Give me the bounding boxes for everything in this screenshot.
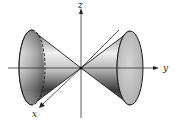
z-axis-label: z xyxy=(77,0,83,10)
y-axis-label: y xyxy=(162,63,169,73)
double-cone-diagram: z y x xyxy=(0,0,175,129)
y-axis-arrowhead xyxy=(153,66,159,70)
vertex-origin xyxy=(79,66,82,69)
x-axis-label: x xyxy=(32,109,37,119)
left-nappe xyxy=(19,30,81,105)
